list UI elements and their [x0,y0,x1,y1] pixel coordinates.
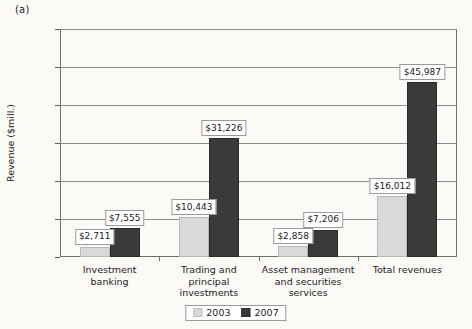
legend-swatch-icon [193,308,202,317]
legend-label: 2003 [206,308,230,318]
category-label-line: Trading and [180,264,239,276]
legend-swatch-icon [242,308,251,317]
category-axis-labels: InvestmentbankingTrading andprincipalinv… [60,260,457,305]
category-label-line: Asset management [262,264,355,276]
x-tick-mark [159,257,160,261]
category-label-line: Total revenues [373,264,442,276]
category-label-line: services [262,287,355,299]
category-label-line: investments [180,287,239,299]
legend-label: 2007 [255,308,279,318]
figure-caption: (a) [15,4,30,15]
category-label-line: and securities [262,276,355,288]
category-label-3: Asset managementand securitiesservices [262,264,355,299]
bar-2007-4 [407,82,437,257]
y-axis-title: Revenue ($mill.) [4,29,17,257]
bar-2003-4 [377,196,407,257]
x-tick-mark [358,257,359,261]
category-label-4: Total revenues [373,264,442,276]
bar-value-label: $2,711 [75,229,115,245]
category-label-2: Trading andprincipalinvestments [180,264,239,299]
category-label-line: banking [83,276,137,288]
chart-legend: 20032007 [185,305,286,321]
bar-value-label: $7,555 [105,210,145,226]
chart-plot-area: 010,00020,00030,00040,00050,00060,000 $2… [60,29,457,257]
legend-item-2003[interactable]: 2003 [193,308,230,318]
bar-2003-2 [179,217,209,257]
category-label-line: principal [180,276,239,288]
bar-value-label: $10,443 [171,199,216,215]
bar-2007-2 [209,138,239,257]
bar-value-label: $16,012 [370,178,415,194]
x-tick-mark [259,257,260,261]
category-label-1: Investmentbanking [83,264,137,287]
bar-value-label: $7,206 [303,212,343,228]
bar-2003-3 [278,246,308,257]
legend-item-2007[interactable]: 2007 [242,308,279,318]
bars-layer: $2,711$7,555$10,443$31,226$2,858$7,206$1… [60,29,457,257]
bar-value-label: $45,987 [400,64,445,80]
bar-2003-1 [80,247,110,257]
category-label-line: Investment [83,264,137,276]
bar-value-label: $31,226 [201,120,246,136]
y-tick-mark [55,257,60,258]
bar-value-label: $2,858 [273,228,313,244]
